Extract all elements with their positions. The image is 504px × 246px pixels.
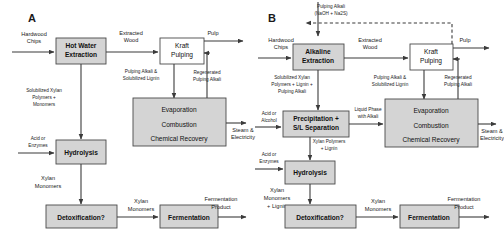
stream-b-xylan-to-ferm-line2: Monomers	[365, 206, 392, 212]
stream-xylanpoly-lignin-line1: Xylan Polymers	[313, 139, 346, 144]
stream-liquid-phase-line2: with Alkali	[358, 114, 379, 119]
stream-extracted-wood-line2: Wood	[124, 37, 139, 43]
stream-b-alkali-lignin-line1: Pulping Alkali &	[374, 75, 407, 80]
stream-ferm-product-line1: Fermentation	[205, 196, 238, 202]
box-recovery-line1: Evaporation	[161, 106, 197, 114]
box-kraft-pulping-line2: Pulping	[171, 51, 193, 59]
panel-b-letter: B	[268, 12, 276, 24]
stream-sol-xylan-line3: Monomers	[33, 102, 56, 107]
stream-b-alkali-lignin-line2: Solubilized Lignin	[372, 82, 409, 87]
figure-canvas: A Hardwood Chips Hot Water Extraction Ex…	[0, 0, 504, 246]
box-detoxification-label: Detoxification?	[57, 214, 105, 221]
stream-b-solxylan-line2: Polymers + Lignin +	[271, 82, 313, 87]
stream-steam-line2: Electricity	[231, 134, 255, 140]
stream-sol-xylan-line2: Polymers +	[32, 95, 56, 100]
stream-steam-line1: Steam &	[232, 127, 254, 133]
stream-acid-enzymes-line2: Enzymes	[28, 143, 48, 148]
stream-b-xylanmono-line2: Monomers	[264, 195, 291, 201]
box-b-recovery-line2: Combustion	[413, 122, 449, 129]
box-hot-water-extraction-line2: Extraction	[65, 51, 97, 58]
stream-xylan-mono-line1: Xylan	[41, 175, 55, 181]
stream-b-extracted-wood-line1: Extracted	[358, 37, 382, 43]
stream-b-pulp: Pulp	[459, 37, 470, 43]
stream-xylanpoly-lignin-line2: + Lignin	[321, 146, 338, 151]
stream-alkali-lignin-line1: Pulping Alkali &	[125, 69, 158, 74]
box-b-recovery-line1: Evaporation	[413, 107, 449, 115]
stream-b-steam-line2: Electricity	[480, 135, 504, 141]
stream-liquid-phase-line1: Liquid Phase	[354, 107, 381, 112]
process-flow-diagram: A Hardwood Chips Hot Water Extraction Ex…	[0, 0, 504, 246]
box-fermentation-label: Fermentation	[168, 214, 210, 221]
box-b-kraft-pulping-line1: Kraft	[424, 48, 438, 55]
stream-pulp: Pulp	[207, 30, 218, 36]
box-hot-water-extraction-line1: Hot Water	[66, 42, 97, 49]
panel-a-letter: A	[28, 12, 36, 24]
stream-acid-alcohol-line1: Acid or	[262, 111, 277, 116]
stream-xylan-mono-line2: Monomers	[35, 183, 62, 189]
stream-b-hardwood-line2: Chips	[274, 44, 289, 50]
stream-b-xylan-to-ferm-line1: Xylan	[371, 198, 385, 204]
stream-acid-alcohol-line2: Alcohol	[261, 118, 276, 123]
stream-pulping-alkali-feed-line1: Pulping Alkali	[317, 4, 345, 9]
box-b-hydrolysis-label: Hydrolysis	[293, 169, 327, 177]
stream-xylan-to-ferm-line2: Monomers	[128, 206, 155, 212]
stream-xylan-to-ferm-line1: Xylan	[134, 198, 148, 204]
stream-b-xylanmono-line1: Xylan	[270, 187, 284, 193]
stream-ferm-product-line2: Product	[211, 204, 231, 210]
stream-b-extracted-wood-line2: Wood	[363, 44, 378, 50]
stream-acid-enzymes-line1: Acid or	[31, 136, 46, 141]
box-alkaline-extraction-line1: Alkaline	[305, 48, 331, 55]
box-alkaline-extraction-line2: Extraction	[302, 57, 334, 64]
stream-b-acid-enzymes-line1: Acid or	[262, 152, 277, 157]
stream-b-xylanmono-line3: + Lignin	[267, 203, 287, 209]
box-kraft-pulping-line1: Kraft	[175, 42, 189, 49]
box-hydrolysis-label: Hydrolysis	[64, 149, 98, 157]
stream-alkali-lignin-line2: Solubilized Lignin	[123, 76, 160, 81]
stream-b-acid-enzymes-line2: Enzymes	[259, 159, 279, 164]
stream-hardwood-chips-line2: Chips	[27, 38, 42, 44]
stream-b-solxylan-line3: Pulping Alkali	[278, 89, 306, 94]
box-precip-line1: Precipitation +	[293, 115, 339, 123]
stream-b-steam-line1: Steam &	[481, 128, 503, 134]
box-precip-line2: S/L Separation	[293, 124, 339, 132]
box-b-kraft-pulping-line2: Pulping	[420, 57, 442, 65]
stream-b-ferm-product-line1: Fermentation	[448, 196, 481, 202]
box-recovery-line3: Chemical Recovery	[150, 135, 208, 143]
box-b-recovery-line3: Chemical Recovery	[402, 136, 460, 144]
stream-extracted-wood-line1: Extracted	[119, 30, 143, 36]
box-b-fermentation-label: Fermentation	[408, 214, 450, 221]
stream-b-solxylan-line1: Solubilized Xylan	[274, 75, 310, 80]
stream-pulping-alkali-feed-line2: (NaOH + Na2S)	[314, 11, 348, 16]
stream-b-ferm-product-line2: Product	[454, 204, 474, 210]
stream-hardwood-chips-line1: Hardwood	[21, 31, 47, 37]
box-b-detoxification-label: Detoxification?	[296, 214, 344, 221]
stream-b-hardwood-line1: Hardwood	[268, 37, 294, 43]
stream-sol-xylan-line1: Solubilized Xylan	[26, 88, 62, 93]
box-recovery-line2: Combustion	[161, 121, 197, 128]
